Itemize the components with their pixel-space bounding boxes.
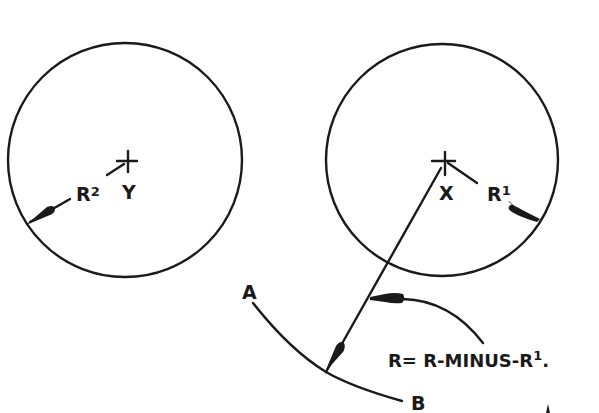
r1-leader-line (448, 163, 477, 183)
formula-callout-line (403, 299, 483, 343)
arc-label-a: A (242, 281, 257, 303)
corner-mark (546, 404, 550, 413)
construction-diagram: R2 Y R1 X A B R= R-MINUS-R1. (0, 0, 599, 413)
r2-arrowhead-icon (26, 206, 55, 225)
center-y-label: Y (121, 181, 136, 203)
arc-label-b: B (411, 392, 425, 413)
center-mark-y-icon (117, 151, 137, 172)
formula-callout-arrowhead-icon (370, 293, 404, 303)
arc-ab (253, 303, 402, 401)
r1-label: R1 (487, 183, 511, 205)
r1-arrowhead-icon (508, 201, 540, 222)
long-radius-arrowhead-icon (325, 342, 345, 372)
center-x-label: X (439, 182, 454, 204)
r2-leader-line (107, 164, 124, 175)
center-mark-x-icon (432, 152, 455, 175)
long-radius-line (326, 168, 441, 372)
r2-label: R2 (76, 183, 100, 205)
formula-text: R= R-MINUS-R1. (388, 348, 549, 371)
